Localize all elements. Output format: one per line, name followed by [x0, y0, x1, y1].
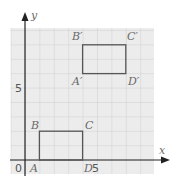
vertex-a-prime-label: A′ — [71, 75, 83, 88]
x-tick-5-label: 5 — [92, 162, 99, 175]
origin-label: 0 — [15, 162, 22, 175]
y-axis-label: y — [30, 9, 38, 22]
x-axis-label: x — [159, 144, 166, 157]
y-arrow-icon — [22, 12, 29, 21]
coordinate-diagram: x y 0 5 5 A B C D B′ C′ A′ D′ — [0, 0, 176, 188]
vertex-c-label: C — [85, 119, 94, 132]
x-arrow-icon — [161, 157, 170, 164]
y-tick-5-label: 5 — [15, 82, 22, 95]
vertex-c-prime-label: C′ — [127, 30, 138, 43]
vertex-a-label: A — [29, 162, 38, 175]
vertex-d-label: D — [83, 162, 93, 175]
vertex-b-prime-label: B′ — [71, 30, 83, 43]
vertex-d-prime-label: D′ — [127, 75, 140, 88]
vertex-b-label: B — [30, 119, 39, 132]
